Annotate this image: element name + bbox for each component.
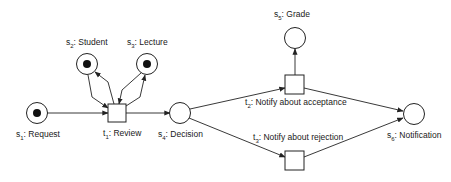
place-s1 (27, 103, 48, 124)
arc-t1-to-s2 (95, 72, 114, 104)
token-icon (143, 60, 151, 68)
place-circle (170, 103, 191, 124)
place-s6 (404, 104, 425, 125)
s4-label: s4: Decision (158, 129, 203, 141)
place-s2 (77, 54, 98, 75)
petri-net-diagram: s1: Requests2: Students3: Lectures4: Dec… (0, 0, 451, 182)
arc-s3-to-t1 (119, 73, 141, 104)
place-circle (404, 104, 425, 125)
t3-label: t3: Notify about rejection (253, 132, 344, 144)
t1-label: t1: Review (103, 128, 142, 140)
transitions (108, 75, 304, 170)
arcs (47, 49, 403, 157)
transition-t2 (285, 75, 304, 94)
s2-label: s2: Student (66, 37, 108, 49)
token-icon (83, 60, 91, 68)
place-s5 (285, 28, 306, 49)
t2-label: t2: Notify about acceptance (245, 97, 347, 109)
labels: s1: Requests2: Students3: Lectures4: Dec… (16, 9, 442, 144)
place-circle (285, 28, 306, 49)
arc-t1-to-s3 (126, 75, 145, 106)
s3-label: s3: Lecture (127, 37, 168, 49)
s6-label: s6: Notification (387, 130, 442, 142)
place-s3 (137, 54, 158, 75)
transition-t3 (285, 151, 304, 170)
s1-label: s1: Request (16, 129, 61, 141)
place-s4 (170, 103, 191, 124)
transition-t1 (108, 104, 126, 122)
s5-label: s5: Grade (274, 9, 310, 21)
token-icon (33, 109, 41, 117)
